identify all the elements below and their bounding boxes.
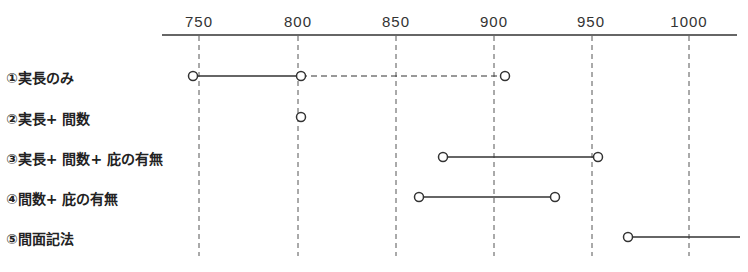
- series-row-3: [439, 153, 603, 162]
- tick-800: 800: [284, 13, 312, 30]
- tick-900: 900: [480, 13, 508, 30]
- row-label-3: ③実長+ 間数+ 庇の有無: [6, 148, 163, 168]
- row-label-4: ④間数+ 庇の有無: [6, 188, 118, 208]
- tick-950: 950: [577, 13, 605, 30]
- row-label-5: ⑤間面記法: [6, 228, 74, 248]
- tick-1000: 1000: [670, 13, 707, 30]
- series-row-4: [415, 193, 560, 202]
- gridlines: [199, 36, 689, 256]
- row-label-2: ②実長+ 間数: [6, 108, 90, 128]
- series-row-5: [624, 233, 741, 242]
- series-row-2: [297, 113, 306, 122]
- tick-750: 750: [185, 13, 213, 30]
- series-row-1: [189, 72, 510, 81]
- tick-850: 850: [382, 13, 410, 30]
- row-label-1: ①実長のみ: [6, 67, 74, 87]
- range-chart: 750 800 850 900 950 1000: [0, 0, 748, 272]
